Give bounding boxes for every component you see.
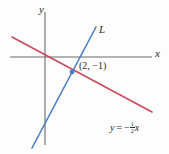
line-label-L: L	[99, 24, 105, 35]
fraction-denominator: 2	[130, 127, 135, 134]
equation-variable: x	[135, 123, 139, 133]
equation-label: y = − 1 2 x	[110, 121, 139, 135]
intersection-point-marker	[70, 70, 75, 75]
x-axis-label: x	[155, 48, 160, 59]
graph-figure: y x L (2, −1) y = − 1 2 x	[0, 0, 169, 154]
graph-canvas	[0, 0, 169, 154]
equation-fraction: 1 2	[130, 121, 135, 135]
equation-equals-sign: =	[116, 123, 122, 133]
equation-lhs: y	[110, 123, 114, 133]
y-axis-label: y	[39, 4, 44, 15]
red-line-half-slope	[12, 37, 152, 112]
blue-line-L	[32, 27, 96, 148]
point-coordinate-label: (2, −1)	[79, 61, 106, 71]
